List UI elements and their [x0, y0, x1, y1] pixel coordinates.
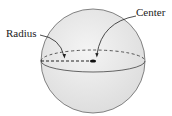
center-point	[90, 59, 96, 62]
radius-label: Radius	[6, 27, 37, 39]
sphere-diagram: Radius Center	[0, 0, 172, 116]
center-label: Center	[136, 6, 165, 18]
